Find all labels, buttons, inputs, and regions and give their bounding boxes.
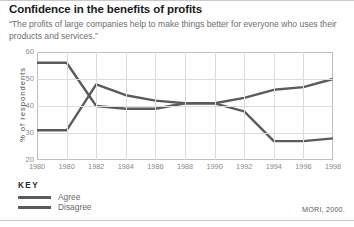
x-tick-label: 1986: [147, 162, 163, 171]
source-attribution: MORI, 2000.: [302, 205, 345, 214]
key-swatch-agree: [18, 196, 51, 199]
x-tick-label: 1982: [88, 162, 104, 171]
key-label-disagree: Disagree: [58, 202, 92, 212]
gridline-vertical: [96, 52, 97, 160]
figure-bottom-rule: [0, 220, 354, 221]
x-tick-label: 1990: [206, 162, 222, 171]
x-axis-ticks: 1980198019821984198619881990199219941996…: [37, 162, 333, 174]
x-tick-label: 1980: [29, 162, 45, 171]
x-tick-label: 1988: [177, 162, 193, 171]
gridline-vertical: [155, 52, 156, 160]
gridline-vertical: [126, 52, 127, 160]
gridline-vertical: [67, 52, 68, 160]
x-tick-label: 1992: [236, 162, 252, 171]
x-tick-label: 1998: [325, 162, 341, 171]
key-label-agree: Agree: [58, 192, 80, 202]
gridline-vertical: [185, 52, 186, 160]
page-title: Confidence in the benefits of profits: [9, 3, 202, 15]
plot-area: [37, 52, 333, 160]
x-tick-label: 1984: [118, 162, 134, 171]
figure-container: Confidence in the benefits of profits “T…: [0, 0, 354, 227]
y-tick-label: 40: [20, 101, 34, 110]
y-tick-label: 50: [20, 74, 34, 83]
x-tick-label: 1980: [58, 162, 74, 171]
y-tick-label: 60: [20, 47, 34, 56]
gridline-vertical: [244, 52, 245, 160]
x-tick-label: 1994: [266, 162, 282, 171]
figure-top-rule: [0, 0, 354, 1]
gridline-vertical: [303, 52, 304, 160]
y-tick-label: 30: [20, 128, 34, 137]
gridline-vertical: [274, 52, 275, 160]
figure-subtitle: “The profits of large companies help to …: [9, 19, 345, 42]
gridline-vertical: [215, 52, 216, 160]
key-swatch-disagree: [18, 206, 51, 209]
key-heading: KEY: [18, 181, 39, 190]
x-tick-label: 1996: [295, 162, 311, 171]
